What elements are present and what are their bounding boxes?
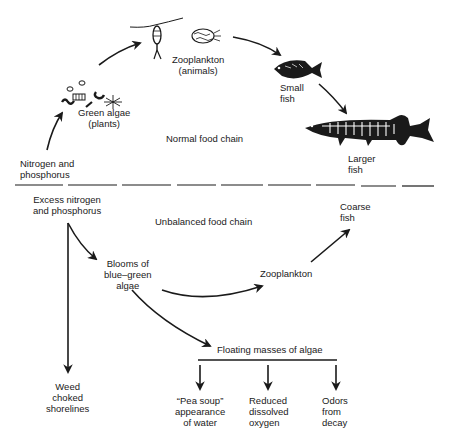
zooplankton-animals-label: Zooplankton (animals) bbox=[172, 54, 224, 76]
unbalanced-food-chain-title: Unbalanced food chain bbox=[155, 216, 252, 227]
small-fish-label: Small fish bbox=[280, 82, 304, 104]
zooplankton-label: Zooplankton bbox=[260, 268, 312, 279]
pike-icon bbox=[305, 115, 434, 146]
arrow-zooplankton-to-small-fish bbox=[233, 37, 280, 55]
arrow-blooms-to-floating bbox=[132, 290, 210, 346]
algae-cluster-icon bbox=[62, 81, 122, 109]
reduced-oxygen-label: Reduced dissolved oxygen bbox=[249, 395, 289, 428]
odors-label: Odors from decay bbox=[322, 395, 348, 428]
larger-fish-label: Larger fish bbox=[348, 153, 375, 175]
arrow-zooplankton-to-coarse-fish bbox=[311, 230, 349, 262]
copepod-icon bbox=[130, 18, 183, 59]
blooms-label: Blooms of blue–green algae bbox=[104, 258, 152, 291]
section-divider bbox=[15, 185, 434, 186]
normal-food-chain-title: Normal food chain bbox=[166, 133, 243, 144]
arrow-small-fish-to-larger-fish bbox=[319, 84, 346, 113]
arrow-nutrients-to-algae bbox=[47, 113, 62, 150]
nutrients-label: Nitrogen and phosphorus bbox=[20, 158, 74, 180]
floating-masses-label: Floating masses of algae bbox=[217, 344, 323, 355]
rotifer-icon bbox=[192, 29, 221, 43]
pea-soup-label: “Pea soup” appearance of water bbox=[175, 395, 225, 428]
coarse-fish-label: Coarse fish bbox=[340, 201, 371, 223]
food-chain-diagram: Zooplankton (animals) Green algae (plant… bbox=[0, 0, 451, 437]
small-fish-icon bbox=[274, 60, 322, 78]
weed-choked-label: Weed choked shorelines bbox=[46, 381, 89, 414]
arrow-algae-to-zooplankton bbox=[99, 43, 140, 65]
arrow-excess-to-blooms bbox=[68, 223, 96, 259]
arrow-blooms-to-zooplankton bbox=[162, 286, 262, 297]
green-algae-label: Green algae (plants) bbox=[78, 107, 130, 129]
excess-nutrients-label: Excess nitrogen and phosphorus bbox=[33, 194, 101, 216]
